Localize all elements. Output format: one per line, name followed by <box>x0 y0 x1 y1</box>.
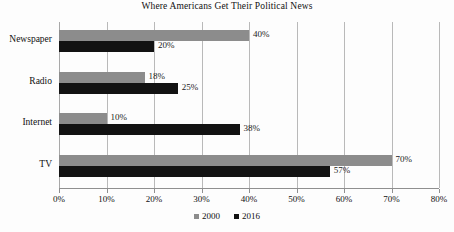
bar-value-label: 70% <box>396 154 413 165</box>
chart-category-row: 18%25% <box>59 64 439 106</box>
legend-swatch-icon <box>234 214 239 219</box>
chart-category-row: 70%57% <box>59 147 439 189</box>
chart-legend: 20002016 <box>0 211 454 221</box>
category-label-radio: Radio <box>0 76 52 86</box>
x-axis-tick <box>392 189 393 193</box>
x-axis-tick <box>202 189 203 193</box>
x-axis-tick-label: 80% <box>419 194 454 204</box>
x-axis-tick <box>59 189 60 193</box>
bar-value-label: 57% <box>334 165 351 176</box>
bar-value-label: 20% <box>158 40 175 51</box>
chart-category-row: 40%20% <box>59 22 439 64</box>
x-axis-tick <box>439 189 440 193</box>
bar-internet-2000[interactable] <box>59 113 107 124</box>
gridline <box>439 22 440 188</box>
category-label-tv: TV <box>0 159 52 169</box>
bar-value-label: 18% <box>149 71 166 82</box>
bar-value-label: 38% <box>244 123 261 134</box>
x-axis-tick-label: 30% <box>182 194 222 204</box>
legend-item-2000[interactable]: 2000 <box>194 211 220 221</box>
x-axis-tick-label: 20% <box>134 194 174 204</box>
bar-radio-2016[interactable] <box>59 83 178 94</box>
x-axis-tick-label: 0% <box>39 194 79 204</box>
x-axis-tick-label: 10% <box>87 194 127 204</box>
plot-area: 40%20%18%25%10%38%70%57% <box>59 22 439 188</box>
category-label-internet: Internet <box>0 117 52 127</box>
chart-category-row: 10%38% <box>59 105 439 147</box>
bar-value-label: 25% <box>182 82 199 93</box>
bar-newspaper-2000[interactable] <box>59 30 249 41</box>
x-axis-tick-label: 70% <box>372 194 412 204</box>
x-axis-tick <box>107 189 108 193</box>
legend-swatch-icon <box>194 214 199 219</box>
chart-title: Where Americans Get Their Political News <box>0 1 454 11</box>
bar-internet-2016[interactable] <box>59 124 240 135</box>
x-axis-tick <box>249 189 250 193</box>
bar-newspaper-2016[interactable] <box>59 41 154 52</box>
category-label-newspaper: Newspaper <box>0 34 52 44</box>
x-axis-tick-label: 60% <box>324 194 364 204</box>
x-axis-tick <box>297 189 298 193</box>
chart-container: Where Americans Get Their Political News… <box>0 0 454 232</box>
legend-label: 2016 <box>242 211 260 221</box>
legend-label: 2000 <box>202 211 220 221</box>
x-axis-tick-label: 50% <box>277 194 317 204</box>
x-axis-tick <box>344 189 345 193</box>
bar-value-label: 40% <box>253 29 270 40</box>
x-axis-tick-label: 40% <box>229 194 269 204</box>
bar-tv-2016[interactable] <box>59 166 330 177</box>
x-axis-tick <box>154 189 155 193</box>
legend-item-2016[interactable]: 2016 <box>234 211 260 221</box>
bar-radio-2000[interactable] <box>59 72 145 83</box>
bar-value-label: 10% <box>111 112 128 123</box>
